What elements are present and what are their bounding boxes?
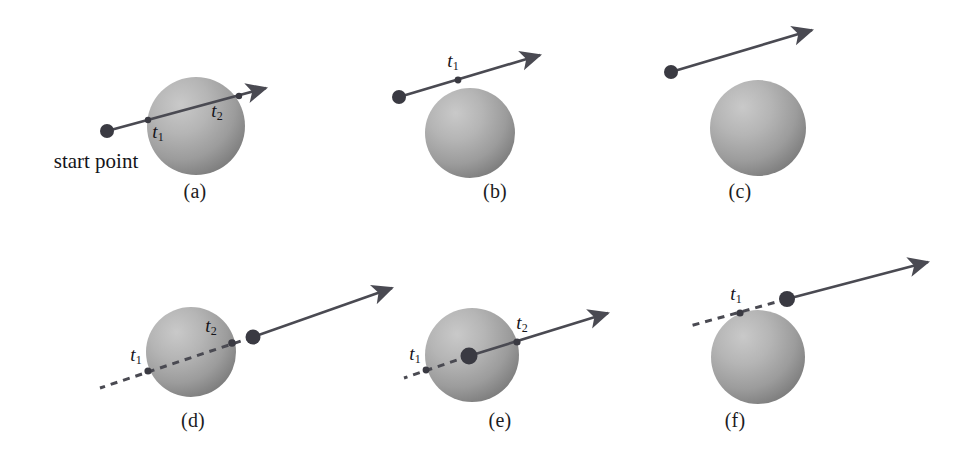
panel-caption-b: (b) bbox=[435, 180, 555, 203]
intersection-dot-t1-d bbox=[144, 367, 151, 374]
intersection-dot-t2-e bbox=[513, 338, 520, 345]
ray-arrow-d bbox=[253, 288, 392, 337]
intersection-dot-t2-a bbox=[236, 93, 242, 99]
label-t1-b: t1 bbox=[447, 50, 459, 74]
start-point-dot-b bbox=[392, 90, 406, 104]
start-point-label-a: start point bbox=[54, 149, 139, 174]
panel-caption-d: (d) bbox=[133, 409, 253, 432]
panel-d bbox=[100, 288, 392, 397]
panel-c bbox=[664, 30, 812, 176]
label-t1-e: t1 bbox=[409, 343, 421, 367]
panel-f bbox=[690, 262, 928, 404]
label-t2-a: t2 bbox=[211, 100, 223, 124]
intersection-dot-t1-e bbox=[423, 367, 430, 374]
intersection-dot-t1-a bbox=[145, 117, 151, 123]
panel-caption-a: (a) bbox=[135, 180, 255, 203]
sphere-b bbox=[425, 88, 515, 178]
start-point-dot-a bbox=[100, 124, 114, 138]
intersection-dot-t1-b bbox=[455, 77, 462, 84]
ray-arrow-c bbox=[671, 30, 812, 72]
ray-sphere-figure: (a)t1t2start point(b)t1(c)(d)t1t2(e)t1t2… bbox=[0, 0, 978, 463]
ray-arrow-f bbox=[787, 262, 928, 299]
start-point-dot-e bbox=[461, 348, 478, 365]
label-t2-e: t2 bbox=[516, 312, 528, 336]
sphere-c bbox=[710, 80, 806, 176]
label-t2-d: t2 bbox=[205, 315, 217, 339]
sphere-f bbox=[711, 310, 805, 404]
start-point-dot-c bbox=[664, 65, 678, 79]
panel-b bbox=[392, 55, 540, 178]
label-t1-d: t1 bbox=[130, 344, 142, 368]
start-point-dot-d bbox=[246, 330, 261, 345]
sphere-d bbox=[146, 307, 236, 397]
label-t1-f: t1 bbox=[730, 283, 742, 307]
panel-caption-c: (c) bbox=[680, 180, 800, 203]
figure-canvas bbox=[0, 0, 978, 463]
intersection-dot-t2-d bbox=[228, 339, 236, 347]
intersection-dot-t1-f bbox=[736, 309, 743, 316]
panel-caption-f: (f) bbox=[675, 409, 795, 432]
panel-caption-e: (e) bbox=[440, 409, 560, 432]
start-point-dot-f bbox=[779, 291, 795, 307]
panel-e bbox=[404, 308, 608, 402]
label-t1-a: t1 bbox=[152, 121, 164, 145]
